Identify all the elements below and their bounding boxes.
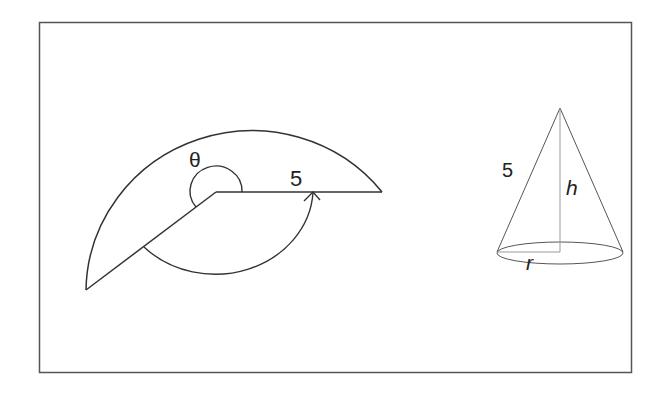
sector-outer-arc: [86, 131, 382, 290]
cone: [497, 108, 623, 264]
sector-radius-label: 5: [290, 166, 302, 191]
cone-height-label: h: [566, 176, 578, 199]
rolling-arrow-arc: [144, 193, 313, 274]
circular-sector: [86, 131, 382, 290]
theta-angle-arc: [190, 166, 242, 207]
sector-radius-slanted: [86, 192, 216, 290]
figure-frame: [40, 23, 632, 373]
sector-to-cone-diagram: θ 5 5 h r: [0, 0, 663, 394]
theta-label: θ: [189, 148, 201, 171]
cone-radius-label: r: [526, 251, 534, 274]
cone-slant-label: 5: [502, 159, 513, 181]
